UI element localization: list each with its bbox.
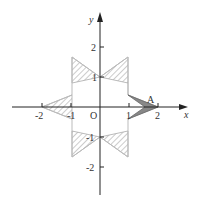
- y-tick-neg1: -1: [86, 132, 94, 143]
- y-axis-label: y: [88, 14, 94, 25]
- x-tick-neg2: -2: [35, 110, 43, 121]
- star-diagram: x y O -2 -1 1 2 2 1 -1 -2 A: [0, 0, 197, 205]
- x-tick-1: 1: [126, 110, 131, 121]
- y-tick-neg2: -2: [86, 162, 94, 173]
- y-tick-1: 1: [92, 72, 97, 83]
- y-tick-2: 2: [91, 42, 96, 53]
- x-tick-neg1: -1: [67, 110, 75, 121]
- y-axis-arrow-icon: [97, 12, 103, 22]
- axes: [12, 18, 182, 195]
- point-a-label: A: [147, 94, 155, 105]
- x-tick-2: 2: [155, 110, 160, 121]
- origin-label: O: [90, 110, 97, 121]
- x-axis-label: x: [183, 109, 189, 120]
